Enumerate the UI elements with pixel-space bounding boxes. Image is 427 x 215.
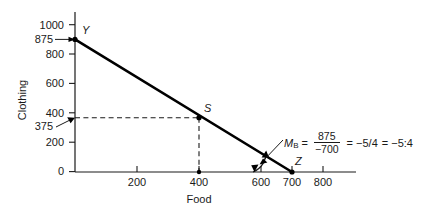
x-axis-title: Food [186,193,211,205]
x-axis-400-marker [197,170,201,174]
point-label-S: S [204,102,212,114]
y-value-label-375: 375 [35,120,53,132]
y-axis-ticks [69,25,75,172]
x-tick-label-400: 400 [190,176,208,188]
equals-sign-2: = [347,138,353,149]
fraction-denominator: −700 [314,144,340,155]
x-tick-label-200: 200 [128,176,146,188]
y-tick-label-200: 200 [46,136,64,148]
y-tick-label-400: 400 [46,107,64,119]
y-tick-label-1000: 1000 [40,19,64,31]
budget-line-chart: 1000 800 600 400 200 0 875 375 200 400 6… [0,0,427,215]
point-label-Z: Z [294,155,303,167]
chart-figure: 1000 800 600 400 200 0 875 375 200 400 6… [0,0,427,215]
slope-annotation: MB = 875 −700 = −5/4 = −5:4 [284,131,413,155]
point-label-Y: Y [82,24,90,36]
x-tick-label-800: 800 [314,176,332,188]
x-tick-label-600: 600 [252,176,270,188]
slope-angle-arrow-down [251,165,258,173]
budget-line [75,39,292,172]
y-value-375-leader [56,120,70,127]
fraction-numerator: 875 [317,131,337,142]
y-tick-label-800: 800 [46,48,64,60]
point-Y-marker [72,37,77,42]
slope-fraction: 875 −700 [314,131,340,155]
y-value-375-arrowhead [67,117,75,123]
point-Z-marker [289,169,294,174]
x-tick-label-700: 700 [283,176,301,188]
equals-sign-3: = [382,138,388,149]
equals-sign-1: = [302,138,308,149]
y-value-label-875: 875 [35,33,53,45]
slope-symbol: M [284,138,293,149]
y-axis-title: Clothing [16,80,28,120]
point-S-marker [196,115,201,120]
y-tick-label-0: 0 [58,165,64,177]
slope-result-fraction: −5/4 [356,138,378,149]
slope-subscript: B [293,142,298,150]
slope-result-ratio: −5:4 [391,138,413,149]
y-tick-label-600: 600 [46,77,64,89]
